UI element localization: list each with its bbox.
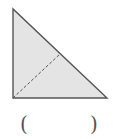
right-triangle bbox=[13, 9, 107, 98]
close-parenthesis: ) bbox=[90, 114, 98, 134]
open-parenthesis: ( bbox=[20, 114, 28, 134]
answer-blank bbox=[34, 114, 86, 134]
